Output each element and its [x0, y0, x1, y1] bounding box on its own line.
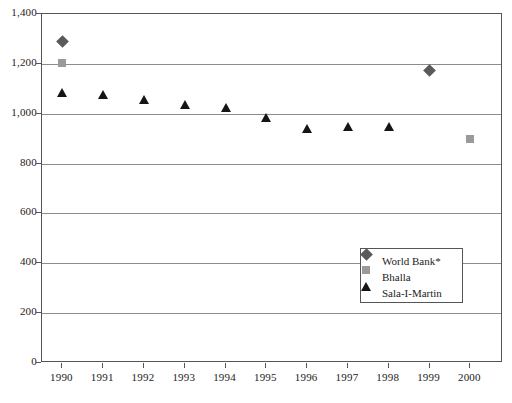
- x-tick-mark: [306, 363, 307, 368]
- x-tick-label: 2000: [439, 371, 499, 383]
- gridline: [42, 64, 501, 65]
- y-tick-label: 200: [0, 306, 37, 317]
- y-tick-label: 1,400: [0, 7, 37, 18]
- data-point-diamond: [56, 35, 69, 48]
- data-point-square: [466, 135, 474, 143]
- data-point-triangle: [221, 103, 231, 112]
- gridline: [42, 164, 501, 165]
- legend-item: World Bank*: [366, 253, 462, 269]
- x-tick-mark: [225, 363, 226, 368]
- y-tick-label: 800: [0, 157, 37, 168]
- data-point-square: [58, 59, 66, 67]
- x-tick-mark: [61, 363, 62, 368]
- data-point-triangle: [98, 90, 108, 99]
- x-tick-mark: [469, 363, 470, 368]
- y-tick-label: 600: [0, 206, 37, 217]
- x-tick-mark: [429, 363, 430, 368]
- y-tick-label: 400: [0, 256, 37, 267]
- data-point-triangle: [57, 88, 67, 97]
- legend-item: Sala-I-Martin: [366, 285, 462, 301]
- x-tick-mark: [265, 363, 266, 368]
- plot-area: [41, 13, 502, 362]
- x-tick-mark: [184, 363, 185, 368]
- legend-marker-square-icon: [362, 266, 370, 274]
- data-point-triangle: [302, 124, 312, 133]
- legend-label: Sala-I-Martin: [382, 287, 442, 300]
- y-tick-mark: [36, 362, 41, 363]
- y-tick-label: 0: [0, 356, 37, 367]
- legend-label: Bhalla: [382, 271, 411, 284]
- y-tick-label: 1,000: [0, 107, 37, 118]
- data-point-triangle: [261, 113, 271, 122]
- legend: World Bank*BhallaSala-I-Martin: [360, 248, 463, 303]
- x-tick-mark: [143, 363, 144, 368]
- data-point-triangle: [139, 95, 149, 104]
- legend-swatch-triangle: [366, 286, 378, 300]
- y-tick-label: 1,200: [0, 57, 37, 68]
- x-tick-mark: [388, 363, 389, 368]
- gridline: [42, 114, 501, 115]
- legend-label: World Bank*: [382, 255, 441, 268]
- data-point-triangle: [384, 122, 394, 131]
- legend-marker-triangle-icon: [361, 282, 371, 291]
- data-point-diamond: [423, 64, 436, 77]
- legend-item: Bhalla: [366, 269, 462, 285]
- chart-container: 02004006008001,0001,2001,400 19901991199…: [0, 0, 512, 403]
- gridline: [42, 213, 501, 214]
- data-point-triangle: [343, 122, 353, 131]
- data-point-triangle: [180, 100, 190, 109]
- y-axis: 02004006008001,0001,2001,400: [0, 0, 37, 403]
- x-tick-mark: [102, 363, 103, 368]
- x-tick-mark: [347, 363, 348, 368]
- gridline: [42, 313, 501, 314]
- legend-marker-diamond-icon: [360, 248, 373, 261]
